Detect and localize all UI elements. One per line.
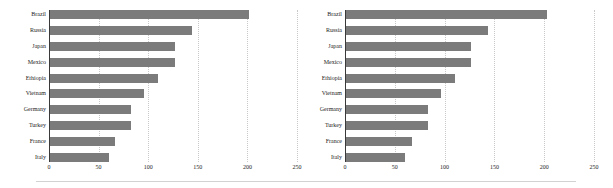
x-tick-label: 0 xyxy=(48,164,51,170)
bar xyxy=(49,137,115,146)
bar xyxy=(345,105,428,114)
bar xyxy=(345,137,412,146)
bar xyxy=(345,26,488,35)
bar-row: Germany xyxy=(49,105,297,114)
category-label: Germany xyxy=(320,105,342,114)
bar-row: Japan xyxy=(345,42,594,51)
category-label: Turkey xyxy=(29,121,46,130)
gridline-left-250 xyxy=(297,10,299,162)
bar xyxy=(49,121,131,130)
bar xyxy=(345,10,547,19)
bottom-divider xyxy=(36,181,576,182)
category-label: Mexico xyxy=(324,58,342,67)
bar xyxy=(345,153,405,162)
bar-row: Russia xyxy=(49,26,297,35)
category-label: Ethiopia xyxy=(322,74,342,83)
bar-row: Italy xyxy=(345,153,594,162)
category-label: Germany xyxy=(24,105,46,114)
x-tick-label: 250 xyxy=(293,164,302,170)
bar xyxy=(49,42,175,51)
bar-row: Vietnam xyxy=(49,89,297,98)
category-label: Brazil xyxy=(327,10,342,19)
x-tick-label: 200 xyxy=(540,164,549,170)
bar xyxy=(49,26,192,35)
plot-area-right: BrazilRussiaJapanMexicoEthiopiaVietnamGe… xyxy=(345,10,594,162)
bar xyxy=(49,58,175,67)
x-axis-left: 050100150200250 xyxy=(49,162,297,178)
bar xyxy=(49,153,109,162)
x-tick-label: 150 xyxy=(193,164,202,170)
bars-right: BrazilRussiaJapanMexicoEthiopiaVietnamGe… xyxy=(345,10,594,162)
category-label: Italy xyxy=(35,153,46,162)
bar-row: Ethiopia xyxy=(49,74,297,83)
x-tick-label: 50 xyxy=(96,164,102,170)
bar-row: Ethiopia xyxy=(345,74,594,83)
bar xyxy=(345,42,471,51)
category-label: Japan xyxy=(328,42,342,51)
plot-area-left: BrazilRussiaJapanMexicoEthiopiaVietnamGe… xyxy=(49,10,297,162)
x-tick-label: 100 xyxy=(440,164,449,170)
category-label: Mexico xyxy=(28,58,46,67)
bar xyxy=(345,121,428,130)
bar-row: Vietnam xyxy=(345,89,594,98)
x-axis-right: 050100150200250 xyxy=(345,162,594,178)
bar-row: France xyxy=(49,137,297,146)
category-label: Italy xyxy=(331,153,342,162)
category-label: France xyxy=(30,137,46,146)
bar-row: Russia xyxy=(345,26,594,35)
category-label: Turkey xyxy=(325,121,342,130)
bar-row: Mexico xyxy=(49,58,297,67)
bar xyxy=(49,105,131,114)
gridline-right-250 xyxy=(594,10,596,162)
bar-row: Germany xyxy=(345,105,594,114)
x-tick-label: 150 xyxy=(490,164,499,170)
category-label: Vietnam xyxy=(322,89,342,98)
bar-row: Mexico xyxy=(345,58,594,67)
bar-row: France xyxy=(345,137,594,146)
x-tick-label: 100 xyxy=(144,164,153,170)
category-label: Vietnam xyxy=(26,89,46,98)
bar xyxy=(49,74,158,83)
category-label: Ethiopia xyxy=(26,74,46,83)
bar xyxy=(345,89,441,98)
bar-row: Brazil xyxy=(345,10,594,19)
bars-left: BrazilRussiaJapanMexicoEthiopiaVietnamGe… xyxy=(49,10,297,162)
bar-row: Turkey xyxy=(49,121,297,130)
bar-row: Brazil xyxy=(49,10,297,19)
chart-panel-left: BrazilRussiaJapanMexicoEthiopiaVietnamGe… xyxy=(0,0,306,188)
bar xyxy=(345,58,471,67)
bar-chart-figure: BrazilRussiaJapanMexicoEthiopiaVietnamGe… xyxy=(0,0,613,188)
bar-row: Japan xyxy=(49,42,297,51)
x-tick-label: 250 xyxy=(590,164,599,170)
bar xyxy=(345,74,455,83)
bar xyxy=(49,10,249,19)
x-tick-label: 50 xyxy=(392,164,398,170)
chart-panel-right: BrazilRussiaJapanMexicoEthiopiaVietnamGe… xyxy=(306,0,613,188)
bar-row: Italy xyxy=(49,153,297,162)
category-label: Brazil xyxy=(31,10,46,19)
bar xyxy=(49,89,144,98)
category-label: France xyxy=(326,137,342,146)
x-tick-label: 200 xyxy=(243,164,252,170)
category-label: Russia xyxy=(326,26,342,35)
category-label: Japan xyxy=(32,42,46,51)
bar-row: Turkey xyxy=(345,121,594,130)
x-tick-label: 0 xyxy=(344,164,347,170)
category-label: Russia xyxy=(30,26,46,35)
